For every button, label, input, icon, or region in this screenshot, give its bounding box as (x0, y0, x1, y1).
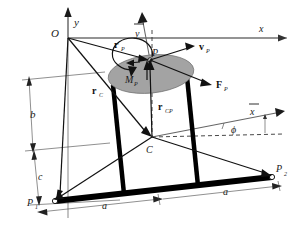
label-axis-x: x (258, 23, 264, 34)
label-vector-rP-group: r P (114, 39, 125, 52)
label-axis-y-bar: y (134, 28, 140, 39)
label-axis-y: y (73, 16, 79, 28)
frame-structure (55, 75, 272, 201)
label-point-C: C (146, 144, 153, 155)
label-vector-rCP-sub: CP (165, 108, 173, 114)
label-velocity-vP-sub: P (205, 48, 210, 54)
line-O-to-P1 (60, 38, 68, 194)
dim-c-arrow-top (32, 150, 38, 160)
label-force-FP-sub: P (223, 86, 228, 92)
label-axis-x-bar-group: x (249, 104, 259, 117)
label-dim-c: c (38, 171, 43, 182)
dim-a-left-arrow-start (37, 209, 48, 216)
label-vector-rCP-group: r CP (158, 101, 173, 114)
ext-line-b-bottom (25, 143, 110, 151)
right-leg (187, 77, 198, 186)
x-bar-axis-line (152, 113, 276, 137)
dim-a-left-arrow-end (153, 196, 163, 203)
vector-vP-arrowhead (185, 43, 195, 51)
horizontal-dashed-through-C (152, 134, 284, 137)
label-vector-rC-group: r C (92, 85, 104, 98)
bottom-bar (55, 177, 272, 201)
label-point-P: P (151, 47, 158, 58)
label-vector-rP: r (114, 39, 119, 50)
label-velocity-vP: v (199, 41, 204, 52)
ext-line-b-top (22, 72, 105, 80)
line-C-to-P2 (152, 137, 265, 173)
label-point-P2-sub: 2 (284, 171, 287, 177)
label-point-P1-sub: 1 (35, 204, 38, 210)
y-bar-axis-arrowhead (138, 12, 148, 24)
dim-b-arrow-bottom (30, 143, 36, 153)
construction-lines (22, 8, 287, 218)
label-axis-y-bar-group: y (134, 24, 144, 39)
label-velocity-vP-group: v P (199, 41, 210, 54)
label-vector-rC: r (92, 85, 97, 96)
label-vector-rC-sub: C (99, 92, 104, 98)
dim-b-arrow-top (27, 76, 33, 86)
label-force-FP-group: F P (216, 79, 228, 92)
vector-rP-line (68, 38, 142, 58)
vector-FP-arrowhead (200, 79, 212, 87)
x-bar-axis-arrowhead (275, 108, 285, 117)
label-moment-MP: M (124, 74, 134, 85)
label-dim-a-right: a (223, 186, 228, 197)
label-vector-rCP: r (158, 101, 163, 112)
y-axis-arrowhead (64, 7, 71, 17)
left-leg (113, 85, 124, 194)
label-point-P2: P (275, 163, 282, 174)
dim-a-right-arrow-end (272, 183, 282, 190)
label-dim-a-left: a (102, 200, 107, 211)
label-angle-phi: ϕ (231, 124, 236, 135)
label-point-P1: P (26, 197, 33, 208)
label-vector-rP-sub: P (120, 46, 125, 52)
label-dim-b: b (30, 108, 36, 120)
label-moment-MP-sub: P (133, 81, 138, 87)
label-point-P1-group: P 1 (26, 197, 38, 210)
line-C-to-P1 (61, 137, 152, 196)
arrowhead-C-to-P2 (261, 169, 272, 177)
label-point-P2-group: P 2 (275, 163, 287, 177)
mechanics-diagram: O y x y x P C P 1 P 2 ϕ M P F P (0, 0, 305, 233)
global-axes (64, 7, 287, 42)
label-axis-x-bar: x (249, 106, 255, 117)
x-axis-arrowhead (278, 35, 287, 42)
label-force-FP: F (216, 79, 222, 90)
label-origin: O (51, 27, 59, 39)
